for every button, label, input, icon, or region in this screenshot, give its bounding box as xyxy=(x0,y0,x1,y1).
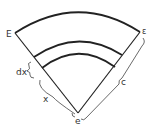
outer-arc xyxy=(15,12,140,33)
sector-diagram: E ε e dx x c xyxy=(0,0,154,127)
label-e-apex: e xyxy=(75,116,81,126)
right-radius-line xyxy=(78,32,140,113)
dx-brace xyxy=(27,62,34,78)
label-x: x xyxy=(43,94,49,104)
label-dx: dx xyxy=(16,67,28,77)
inner-arc xyxy=(42,54,115,68)
label-E: E xyxy=(6,29,12,39)
label-epsilon: ε xyxy=(142,27,146,36)
label-c: c xyxy=(121,77,126,87)
